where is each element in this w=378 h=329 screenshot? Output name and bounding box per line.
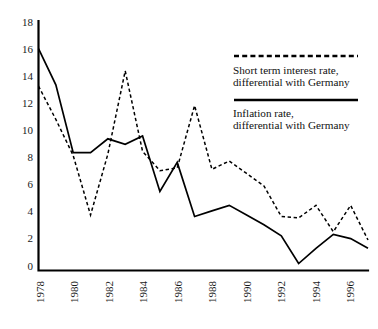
x-tick-label: 1986 xyxy=(172,281,184,304)
line-chart: 18 16 14 12 10 8 6 4 2 0 1978 1980 1982 … xyxy=(0,0,378,329)
x-tick-label: 1984 xyxy=(137,281,149,304)
x-tick-label: 1994 xyxy=(310,281,322,304)
series-line-short-term-interest-rate xyxy=(39,71,369,240)
x-tick-label: 1990 xyxy=(241,281,253,304)
legend-label-line2: differential with Germany xyxy=(233,76,350,88)
x-axis-tick-labels: 1978 1980 1982 1984 1986 1988 1990 1992 … xyxy=(34,281,356,304)
x-tick-label: 1988 xyxy=(206,281,218,304)
y-tick-label: 18 xyxy=(22,16,34,28)
legend-label-line1: Inflation rate, xyxy=(233,107,294,119)
y-tick-label: 6 xyxy=(28,178,34,190)
x-tick-label: 1996 xyxy=(344,281,356,304)
chart-axes xyxy=(39,21,369,271)
y-tick-label: 8 xyxy=(28,151,34,163)
y-tick-label: 16 xyxy=(22,43,34,55)
x-tick-label: 1982 xyxy=(103,281,115,303)
x-tick-label: 1978 xyxy=(34,281,46,304)
y-tick-label: 0 xyxy=(28,260,34,272)
y-tick-label: 2 xyxy=(28,232,34,244)
y-tick-label: 12 xyxy=(22,97,33,109)
chart-legend: Short term interest rate, differential w… xyxy=(233,56,358,131)
y-tick-label: 10 xyxy=(22,124,34,136)
legend-label-line2: differential with Germany xyxy=(233,119,350,131)
x-tick-label: 1980 xyxy=(68,281,80,304)
x-tick-label: 1992 xyxy=(275,281,287,303)
y-tick-label: 4 xyxy=(28,205,34,217)
legend-label-line1: Short term interest rate, xyxy=(233,64,339,76)
y-axis-tick-labels: 18 16 14 12 10 8 6 4 2 0 xyxy=(22,16,34,272)
chart-container: 18 16 14 12 10 8 6 4 2 0 1978 1980 1982 … xyxy=(0,0,378,329)
y-tick-label: 14 xyxy=(22,70,34,82)
